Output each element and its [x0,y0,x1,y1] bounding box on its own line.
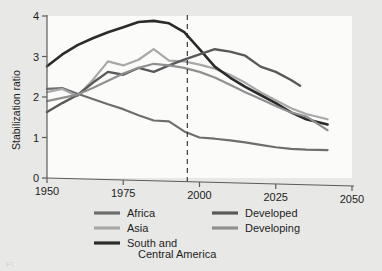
y-tick-label: 0 [33,172,39,184]
legend-item[interactable]: Africa [94,207,156,219]
y-tick-label: 2 [33,91,39,103]
x-tick-label: 2050 [340,193,364,205]
legend-label-line2: Central America [138,248,217,260]
y-tick-label: 1 [33,132,39,144]
cropped-caption-fragment: Fi [6,260,14,269]
legend-item[interactable]: Developed [212,207,298,219]
plot-background [47,16,352,178]
chart-container: 0123419501975200020252050 Stabilization … [0,0,382,271]
x-tick-label: 1950 [35,185,59,197]
line-chart: 0123419501975200020252050 Stabilization … [0,0,382,271]
x-tick-label: 1975 [111,187,135,199]
legend-item[interactable]: South andCentral America [94,237,217,260]
legend-label: Asia [127,222,149,234]
legend-label: Developing [245,222,300,234]
y-tick-label: 4 [33,10,39,22]
chart-legend: AfricaAsiaSouth andCentral AmericaDevelo… [94,207,300,260]
y-tick-label: 3 [33,51,39,63]
legend-item[interactable]: Asia [94,222,149,234]
x-tick-label: 2000 [187,189,211,201]
legend-label: Africa [127,207,156,219]
y-axis-label: Stabilization ratio [10,70,22,150]
legend-label: Developed [245,207,298,219]
x-tick-label: 2025 [264,191,288,203]
x-axis [47,178,354,186]
legend-item[interactable]: Developing [212,222,300,234]
